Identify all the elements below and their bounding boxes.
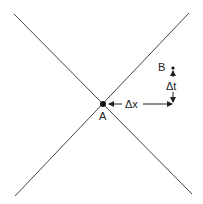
dt-label: Δt — [166, 80, 176, 92]
point-b-dot — [171, 66, 174, 69]
point-a-dot — [100, 101, 106, 107]
point-a-label: A — [99, 110, 107, 122]
diagram-canvas: A Δx B Δt — [0, 0, 203, 204]
dx-label: Δx — [125, 98, 138, 110]
point-b-label: B — [158, 61, 165, 73]
